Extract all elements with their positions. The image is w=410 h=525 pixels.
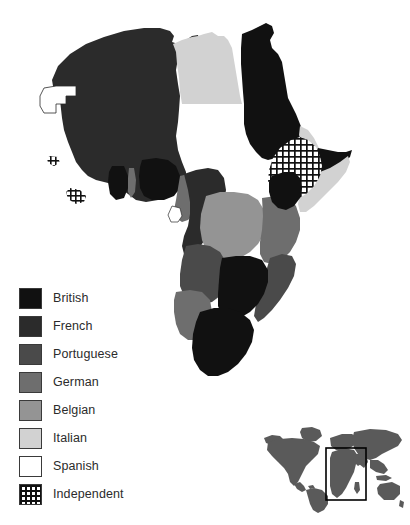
swatch-french xyxy=(19,316,42,337)
landmass-central-america xyxy=(294,482,306,492)
landmass-madagascar xyxy=(354,482,360,494)
legend-label-french: French xyxy=(53,320,93,333)
swatch-german xyxy=(19,372,42,393)
landmass-indonesia xyxy=(376,475,392,481)
legend-item-french: French xyxy=(19,312,184,340)
territory-sierra-leone-notch xyxy=(47,156,60,166)
legend-item-british: British xyxy=(19,284,184,312)
map-figure: British French Portuguese German Belgian… xyxy=(0,0,410,525)
swatch-british xyxy=(19,288,42,309)
territory-liberia xyxy=(66,188,86,204)
legend-label-british: British xyxy=(53,292,88,305)
legend-item-german: German xyxy=(19,368,184,396)
legend-item-portuguese: Portuguese xyxy=(19,340,184,368)
swatch-belgian xyxy=(19,400,42,421)
swatch-portuguese xyxy=(19,344,42,365)
legend-item-italian: Italian xyxy=(19,424,184,452)
landmass-north-america xyxy=(267,438,320,486)
legend-label-italian: Italian xyxy=(53,432,87,445)
legend-item-belgian: Belgian xyxy=(19,396,184,424)
legend-label-independent: Independent xyxy=(53,488,124,501)
landmass-south-america xyxy=(306,488,328,513)
legend-label-spanish: Spanish xyxy=(53,460,99,473)
legend-item-spanish: Spanish xyxy=(19,452,184,480)
territory-gold-coast xyxy=(108,166,128,200)
landmass-southeast-asia xyxy=(370,460,388,474)
legend-item-independent: Independent xyxy=(19,480,184,508)
swatch-italian xyxy=(19,428,42,449)
legend-label-german: German xyxy=(53,376,99,389)
legend-label-portuguese: Portuguese xyxy=(53,348,118,361)
swatch-spanish xyxy=(19,456,42,477)
territory-spanish-guinea xyxy=(168,206,182,222)
colonial-power-legend: British French Portuguese German Belgian… xyxy=(19,284,184,508)
landmass-new-zealand xyxy=(399,500,404,508)
territory-libya xyxy=(173,32,242,104)
landmass-australia xyxy=(377,482,400,500)
territory-union-of-south-africa xyxy=(192,308,254,376)
swatch-independent xyxy=(19,484,42,505)
legend-label-belgian: Belgian xyxy=(53,404,95,417)
world-locator-map xyxy=(258,424,404,516)
